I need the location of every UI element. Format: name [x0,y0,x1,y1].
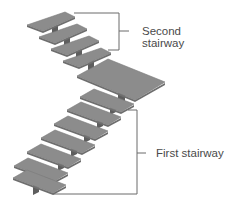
second-stairway-label-line1: Second [142,25,184,37]
second-stairway-label: Second stairway [142,25,184,49]
second-stairway [27,12,111,73]
stairway-diagram [0,0,240,208]
second-stairway-label-line2: stairway [142,37,184,49]
first-stairway-label: First stairway [156,147,224,159]
first-stairway [13,89,134,195]
